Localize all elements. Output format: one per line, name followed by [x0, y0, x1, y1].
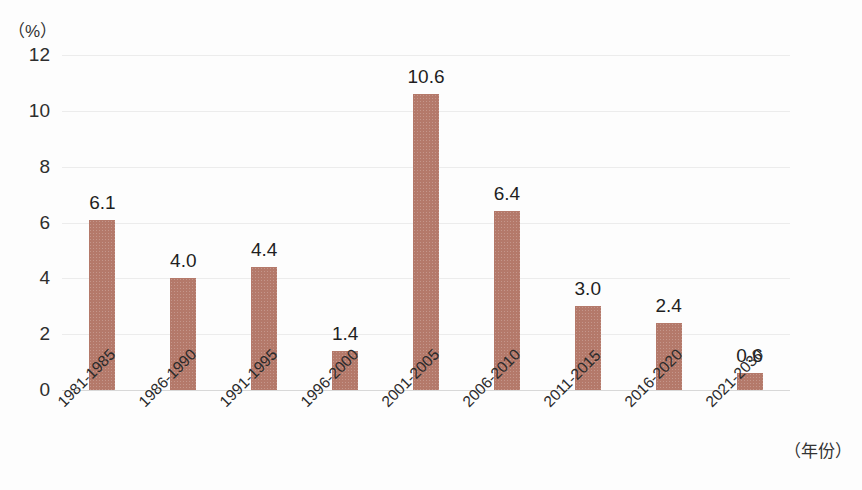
- x-axis-title: （年份）: [784, 437, 852, 462]
- y-axis-tick-label: 0: [39, 379, 50, 401]
- plot-area: 024681012 6.14.04.41.410.66.43.02.40.6: [62, 55, 790, 390]
- bar-chart: （%） 024681012 6.14.04.41.410.66.43.02.40…: [0, 0, 862, 490]
- bar-value-label: 6.1: [89, 192, 115, 214]
- bar-group: 10.6: [386, 55, 467, 390]
- bar-value-label: 1.4: [332, 323, 358, 345]
- axis-baseline: 0: [62, 390, 790, 391]
- bar-group: 0.6: [709, 55, 790, 390]
- bar-group: 6.4: [466, 55, 547, 390]
- bar[interactable]: [413, 94, 439, 390]
- bar-group: 6.1: [62, 55, 143, 390]
- bar-value-label: 6.4: [494, 183, 520, 205]
- bar-group: 4.4: [224, 55, 305, 390]
- bar-group: 4.0: [143, 55, 224, 390]
- bar-value-label: 4.0: [170, 250, 196, 272]
- y-axis-tick-label: 4: [39, 267, 50, 289]
- bar-group: 2.4: [628, 55, 709, 390]
- y-axis-tick-label: 10: [29, 100, 50, 122]
- y-axis-tick-label: 2: [39, 323, 50, 345]
- bar-group: 3.0: [547, 55, 628, 390]
- y-axis-unit-label: （%）: [8, 17, 57, 42]
- bar-value-label: 10.6: [407, 66, 444, 88]
- y-axis-tick-label: 8: [39, 156, 50, 178]
- y-axis-tick-label: 12: [29, 44, 50, 66]
- y-axis-tick-label: 6: [39, 212, 50, 234]
- bar-value-label: 4.4: [251, 239, 277, 261]
- bar-value-label: 3.0: [575, 278, 601, 300]
- bar-group: 1.4: [305, 55, 386, 390]
- bar-value-label: 2.4: [655, 295, 681, 317]
- bar-series: 6.14.04.41.410.66.43.02.40.6: [62, 55, 790, 390]
